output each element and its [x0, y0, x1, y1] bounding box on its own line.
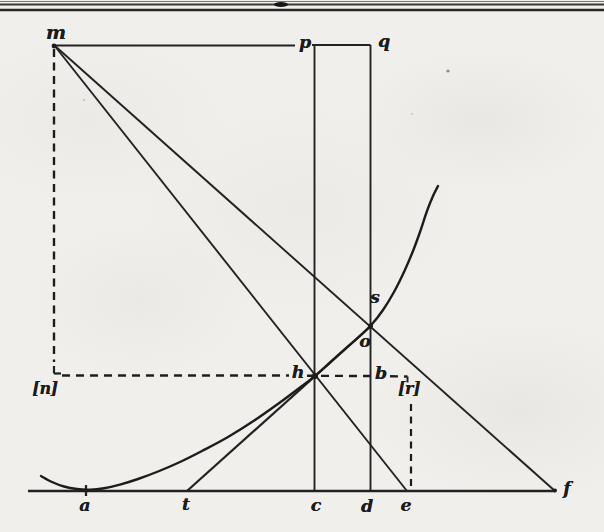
paper-speck	[83, 99, 85, 101]
point-label-o: o	[359, 333, 371, 351]
point-label-n-bracketed: [n]	[32, 381, 57, 397]
diagram-strokes	[0, 0, 604, 532]
line-m-s-f	[54, 45, 555, 491]
point-label-h: h	[292, 364, 305, 382]
paper-speck	[411, 113, 413, 115]
point-label-a: a	[79, 497, 90, 515]
point-label-e: e	[400, 497, 411, 515]
point-label-t: t	[182, 496, 190, 514]
point-label-d: d	[361, 498, 373, 516]
line-m-h-e	[54, 45, 407, 491]
junction-h	[312, 373, 318, 379]
point-label-b: b	[375, 365, 387, 383]
point-label-q: q	[378, 33, 390, 51]
junction-f	[553, 489, 557, 493]
junction-m	[52, 44, 57, 49]
point-label-r-bracketed: [r]	[398, 381, 420, 397]
paper-speck	[446, 69, 449, 72]
point-label-p: p	[299, 34, 311, 52]
rule-ink-blob	[274, 2, 288, 7]
point-label-c: c	[311, 497, 322, 515]
scanned-book-page: m p q s o h b [n] [r] a t c d e f	[0, 0, 604, 532]
point-label-m: m	[46, 23, 66, 42]
point-label-s: s	[370, 289, 380, 307]
point-label-f: f	[563, 480, 571, 498]
junction-o-s	[368, 324, 373, 329]
